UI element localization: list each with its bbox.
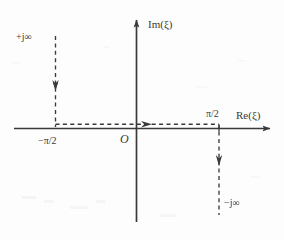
imaginary-axis-label: Im(ξ) <box>148 19 172 30</box>
complex-plane-figure: Im(ξ) Re(ξ) +j∞ −π/2 O π/2 −j∞ <box>0 0 284 240</box>
contour-horizontal-arrowhead <box>141 121 152 127</box>
real-axis-label: Re(ξ) <box>236 110 260 121</box>
plus-j-infinity-label: +j∞ <box>16 32 32 42</box>
scan-texture <box>12 46 259 217</box>
pi-over-two-label: π/2 <box>206 109 219 119</box>
origin-label: O <box>120 133 129 145</box>
minus-pi-over-two-label: −π/2 <box>38 136 56 146</box>
minus-j-infinity-label: −j∞ <box>224 198 240 208</box>
